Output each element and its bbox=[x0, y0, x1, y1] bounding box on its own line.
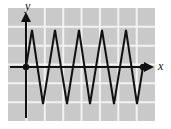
graph-figure: y x bbox=[0, 0, 171, 129]
y-axis-label: y bbox=[25, 0, 30, 12]
origin-dot bbox=[23, 64, 29, 70]
endpoint-dot bbox=[140, 64, 146, 70]
x-axis-label: x bbox=[158, 60, 163, 72]
graph-svg bbox=[0, 0, 171, 129]
